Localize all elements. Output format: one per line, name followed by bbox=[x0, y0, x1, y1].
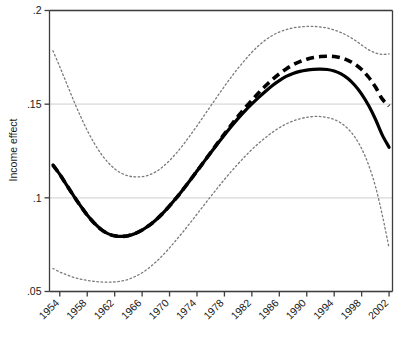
chart-background bbox=[0, 0, 407, 339]
y-tick-label: .1 bbox=[33, 192, 42, 204]
y-tick-label: .2 bbox=[33, 4, 42, 16]
y-tick-label: .05 bbox=[27, 285, 42, 297]
y-tick-label: .15 bbox=[27, 98, 42, 110]
y-axis-title: Income effect bbox=[7, 118, 19, 181]
chart-figure: .05.1.15.2 19541958196219661970197419781… bbox=[0, 0, 407, 339]
chart-canvas: .05.1.15.2 19541958196219661970197419781… bbox=[0, 0, 407, 339]
